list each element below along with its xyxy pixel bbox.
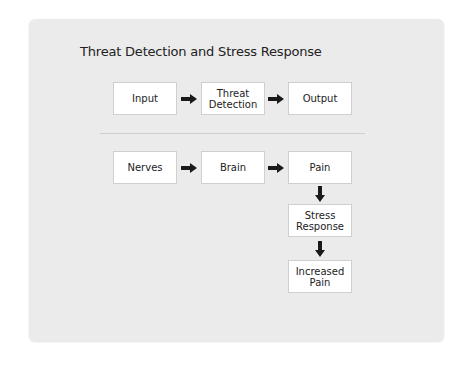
node-increased-pain: Increased Pain (288, 260, 352, 293)
node-brain: Brain (201, 151, 265, 184)
node-stress-response: Stress Response (288, 204, 352, 237)
node-threat-detection: Threat Detection (201, 82, 265, 115)
arrow-right-icon (268, 163, 284, 173)
node-pain: Pain (288, 151, 352, 184)
section-divider (100, 133, 365, 134)
node-input: Input (113, 82, 177, 115)
arrow-right-icon (268, 94, 284, 104)
diagram-title: Threat Detection and Stress Response (80, 44, 322, 59)
arrow-down-icon (315, 186, 325, 202)
arrow-down-icon (315, 241, 325, 257)
node-output: Output (288, 82, 352, 115)
arrow-right-icon (181, 163, 197, 173)
node-nerves: Nerves (113, 151, 177, 184)
arrow-right-icon (181, 94, 197, 104)
